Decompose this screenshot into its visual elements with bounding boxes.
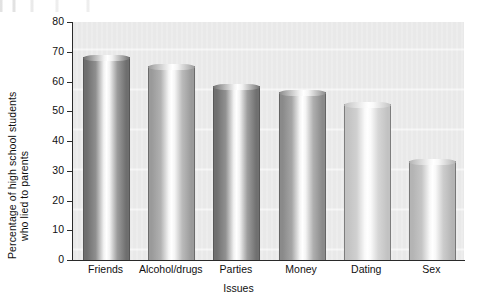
y-axis-tick-mark (67, 230, 73, 231)
plot-grain-vertical (73, 22, 464, 260)
bar-top-cap (213, 84, 260, 90)
bar-top-cap (83, 55, 130, 61)
bar-dating (344, 104, 391, 260)
y-axis-tick-label: 40 (36, 135, 64, 146)
y-axis-tick-labels: 01020304050607080 (34, 0, 64, 300)
y-axis-tick-label: 50 (36, 105, 64, 116)
y-axis-tick-label: 60 (36, 76, 64, 87)
x-axis-title: Issues (0, 282, 477, 294)
y-axis-tick-label: 80 (36, 16, 64, 27)
y-axis-tick-mark (67, 260, 73, 261)
y-axis-tick-label: 30 (36, 165, 64, 176)
bar-parties (213, 86, 260, 260)
plot-area (73, 22, 464, 260)
y-axis-tick-label: 20 (36, 195, 64, 206)
y-axis-tick-mark (67, 201, 73, 202)
bar-alcohol-drugs (148, 66, 195, 260)
x-axis-line (72, 260, 465, 261)
scan-artifact (0, 0, 477, 12)
y-axis-tick-label: 70 (36, 46, 64, 57)
y-axis-tick-label: 10 (36, 224, 64, 235)
bar-top-cap (409, 159, 456, 165)
y-axis-tick-mark (67, 82, 73, 83)
y-axis-title-line-1: Percentage of high school students (6, 92, 18, 259)
x-axis-tick-label-sex: Sex (371, 263, 477, 275)
y-axis-tick-mark (67, 171, 73, 172)
bar-friends (83, 57, 130, 260)
y-axis-tick-mark (67, 52, 73, 53)
y-axis-tick-mark (67, 111, 73, 112)
bar-money (279, 92, 326, 260)
bar-top-cap (148, 64, 195, 70)
y-axis-tick-mark (67, 141, 73, 142)
y-axis-tick-mark (67, 22, 73, 23)
bar-chart-figure: Percentage of high school students who l… (0, 0, 477, 300)
y-axis-title-line-2: who lied to parents (18, 151, 30, 241)
plot-grain-horizontal (73, 22, 464, 260)
bar-top-cap (344, 102, 391, 108)
bar-top-cap (279, 90, 326, 96)
bar-sex (409, 161, 456, 260)
